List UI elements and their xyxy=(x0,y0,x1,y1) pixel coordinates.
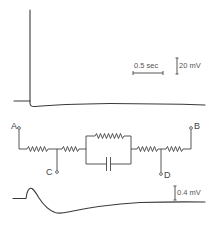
resistor-2 xyxy=(57,147,86,152)
time-scale-bar xyxy=(133,71,163,75)
circuit-diagram xyxy=(18,127,193,176)
resistor-1 xyxy=(23,147,57,152)
label-b: B xyxy=(194,122,200,131)
resistor-4 xyxy=(161,130,191,152)
terminal-a xyxy=(18,127,21,130)
label-c: C xyxy=(46,168,53,177)
label-d: D xyxy=(164,171,171,180)
terminal-d xyxy=(160,173,163,176)
resistor-parallel xyxy=(86,134,131,139)
capacitor xyxy=(107,157,111,171)
label-a: A xyxy=(11,122,17,131)
voltage-scale-label-top: 20 mV xyxy=(179,62,201,70)
terminal-b xyxy=(190,127,193,130)
resistor-3 xyxy=(131,147,161,152)
voltage-scale-label-bottom: 0.4 mV xyxy=(177,189,201,197)
terminal-c xyxy=(56,171,59,174)
time-scale-label: 0.5 sec xyxy=(134,62,158,70)
